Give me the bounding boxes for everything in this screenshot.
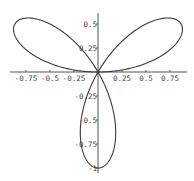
y-tick-label: 0.5: [83, 20, 97, 29]
x-tick-label: 0.25: [113, 74, 131, 83]
x-tick-label: -0.75: [15, 74, 38, 83]
x-tick-label: -0.25: [63, 74, 86, 83]
rose-curve-plot: -0.75-0.5-0.250.250.50.75 0.50.25-0.25-0…: [0, 0, 194, 181]
x-tick-label: -0.5: [41, 74, 59, 83]
x-tick-label: 0.5: [139, 74, 153, 83]
y-tick-label: 0.25: [79, 44, 97, 53]
x-tick-label: 0.75: [161, 74, 179, 83]
y-tick-label: -0.75: [74, 140, 97, 149]
y-axis-ticks: 0.50.25-0.25-0.5-0.75-1: [74, 20, 98, 173]
